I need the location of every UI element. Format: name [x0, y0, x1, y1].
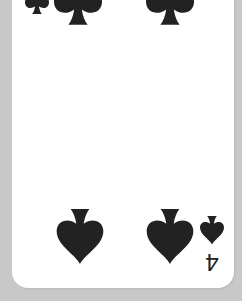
playing-card-four-of-spades[interactable]: 4	[12, 0, 234, 288]
corner-spade-icon-bottom	[200, 214, 224, 246]
pip-top-right-spade-icon	[146, 0, 194, 34]
pip-bottom-left-spade-icon	[56, 208, 104, 264]
pip-bottom-right-spade-icon	[146, 208, 194, 264]
corner-spade-icon-top	[25, 0, 49, 26]
table-background: 4	[0, 0, 242, 301]
corner-rank-bottom: 4	[202, 250, 222, 274]
pip-top-left-spade-icon	[54, 0, 102, 34]
